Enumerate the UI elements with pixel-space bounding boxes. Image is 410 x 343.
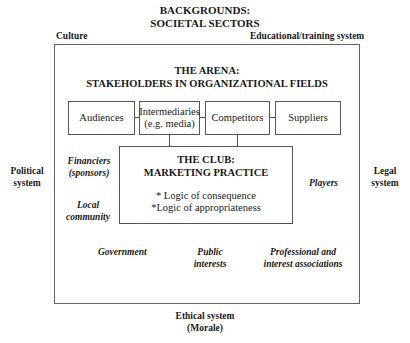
label-financiers-line1: Financiers — [62, 155, 116, 167]
backgrounds-title: BACKGROUNDS: SOCIETAL SECTORS — [105, 4, 305, 30]
label-culture: Culture — [56, 30, 88, 42]
logic-consequence: * Logic of consequence — [119, 190, 293, 202]
label-political-line2: system — [2, 177, 52, 189]
label-public-line1: Public — [185, 246, 235, 258]
box-intermediaries: Intermediaries (e.g. media) — [139, 101, 200, 135]
box-suppliers: Suppliers — [275, 101, 341, 135]
backgrounds-title-line1: BACKGROUNDS: — [105, 4, 305, 17]
connector-competitors-suppliers — [270, 117, 275, 118]
label-professional-associations: Professional and interest associations — [248, 246, 358, 270]
label-financiers: Financiers (sponsors) — [62, 155, 116, 179]
backgrounds-title-line2: SOCIETAL SECTORS — [105, 17, 305, 30]
label-ethical-system: Ethical system (Morale) — [155, 310, 255, 334]
label-legal-line2: system — [360, 177, 410, 189]
club-title: THE CLUB: MARKETING PRACTICE — [119, 153, 293, 179]
logic-appropriateness: *Logic of appropriateness — [119, 202, 293, 214]
box-competitors-label: Competitors — [212, 112, 264, 124]
label-ethical-line1: Ethical system — [155, 310, 255, 322]
label-professional-line2: interest associations — [248, 258, 358, 270]
label-public-line2: interests — [185, 258, 235, 270]
connector-intermediaries-competitors — [200, 117, 205, 118]
label-local-line1: Local — [60, 199, 116, 211]
club-title-line1: THE CLUB: — [119, 153, 293, 166]
box-intermediaries-line2: (e.g. media) — [144, 118, 194, 130]
label-local-community: Local community — [60, 199, 116, 223]
box-audiences: Audiences — [68, 101, 135, 135]
label-political-line1: Political — [2, 165, 52, 177]
label-educational-system: Educational/training system — [250, 30, 360, 42]
arena-title: THE ARENA: STAKEHOLDERS IN ORGANIZATIONA… — [60, 64, 354, 90]
box-competitors: Competitors — [205, 101, 270, 135]
club-logics: * Logic of consequence *Logic of appropr… — [119, 190, 293, 214]
label-financiers-line2: (sponsors) — [62, 167, 116, 179]
arena-title-line2: STAKEHOLDERS IN ORGANIZATIONAL FIELDS — [60, 77, 354, 90]
box-suppliers-label: Suppliers — [288, 112, 328, 124]
label-legal-system: Legal system — [360, 165, 410, 189]
arena-title-line1: THE ARENA: — [60, 64, 354, 77]
box-audiences-label: Audiences — [79, 112, 123, 124]
label-ethical-line2: (Morale) — [155, 322, 255, 334]
connector-audiences-intermediaries — [135, 117, 139, 118]
connector-intermediaries-club — [169, 135, 170, 146]
label-legal-line1: Legal — [360, 165, 410, 177]
box-intermediaries-line1: Intermediaries — [139, 106, 200, 118]
label-local-line2: community — [60, 211, 116, 223]
label-public-interests: Public interests — [185, 246, 235, 270]
label-political-system: Political system — [2, 165, 52, 189]
label-government: Government — [98, 246, 147, 258]
connector-competitors-club — [237, 135, 238, 146]
label-professional-line1: Professional and — [248, 246, 358, 258]
label-players: Players — [309, 177, 338, 189]
club-title-line2: MARKETING PRACTICE — [119, 166, 293, 179]
